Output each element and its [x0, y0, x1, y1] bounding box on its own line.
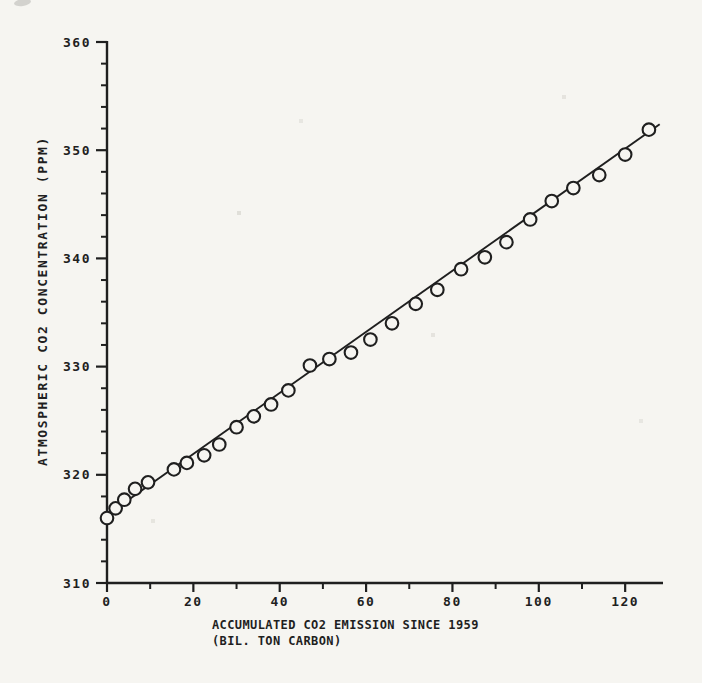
y-tick-label: 310 [63, 576, 91, 591]
x-tick-label: 80 [443, 594, 462, 609]
data-point [643, 123, 656, 136]
data-point [142, 476, 155, 489]
data-point [265, 398, 278, 411]
data-point [593, 169, 606, 182]
data-point [323, 353, 336, 366]
scan-noise-specks [0, 0, 2, 2]
data-point [479, 251, 492, 264]
y-tick-label: 360 [63, 35, 91, 50]
x-tick-label: 120 [611, 594, 639, 609]
data-point [304, 359, 317, 372]
plot-area: 310320330340350360020406080100120 [63, 35, 663, 610]
data-point [282, 384, 295, 397]
data-point [364, 333, 377, 346]
scanned-figure-page: 310320330340350360020406080100120 ACCUMU… [0, 0, 702, 683]
data-point [386, 317, 399, 330]
data-point [567, 182, 580, 195]
data-point [455, 263, 468, 276]
y-tick-label: 320 [63, 467, 91, 482]
co2-emission-scatter-chart: 310320330340350360020406080100120 ACCUMU… [0, 0, 702, 683]
x-tick-label: 40 [270, 594, 289, 609]
data-point [129, 483, 142, 496]
data-point [409, 298, 422, 311]
y-tick-label: 330 [63, 359, 91, 374]
y-tick-label: 350 [63, 143, 91, 158]
data-point [168, 463, 181, 476]
x-tick-label: 20 [184, 594, 203, 609]
data-point [345, 346, 358, 359]
data-point [230, 421, 243, 434]
data-point [181, 457, 194, 470]
data-point [248, 410, 261, 423]
data-point [545, 195, 558, 208]
y-tick-label: 340 [63, 251, 91, 266]
x-tick-label: 0 [102, 594, 111, 609]
x-tick-label: 60 [357, 594, 376, 609]
x-tick-label: 100 [525, 594, 553, 609]
x-axis-title: ACCUMULATED CO2 EMISSION SINCE 1959 [212, 618, 479, 632]
data-point [118, 493, 131, 506]
data-point [431, 283, 444, 296]
data-point [619, 148, 632, 161]
x-axis-title-unit: (BIL. TON CARBON) [212, 634, 342, 648]
y-axis-title: ATMOSPHERIC CO2 CONCENTRATION (PPM) [35, 136, 50, 466]
data-point [213, 438, 226, 451]
data-point [500, 236, 513, 249]
data-point [198, 449, 211, 462]
data-point [524, 213, 537, 226]
